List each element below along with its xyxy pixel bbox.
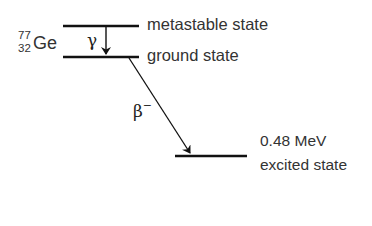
element-symbol: Ge [33, 34, 57, 52]
excited-state-label: excited state [260, 157, 347, 173]
atomic-number: 32 [18, 43, 31, 55]
mass-number: 77 [18, 30, 31, 42]
beta-minus-label: β− [133, 101, 152, 120]
ground-state-label: ground state [147, 47, 239, 64]
beta-charge: − [143, 99, 152, 112]
beta-symbol: β [133, 101, 143, 121]
nuclide-label: 77 32 Ge [18, 30, 66, 60]
gamma-label: γ [87, 32, 97, 49]
metastable-state-label: metastable state [147, 16, 268, 33]
excited-energy-label: 0.48 MeV [260, 133, 326, 149]
